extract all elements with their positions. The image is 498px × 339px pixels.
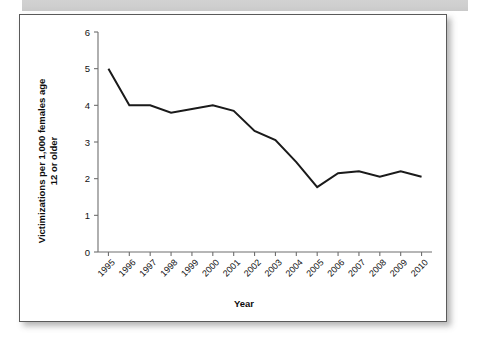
x-tick-label: 2003 [263, 257, 284, 278]
figure-card: Victimizations per 1,000 females age 12 … [19, 14, 447, 322]
chart-plot-area: Victimizations per 1,000 females age 12 … [20, 15, 446, 321]
y-axis-tick-labels: 0123456 [85, 27, 90, 258]
data-series-line [108, 69, 421, 187]
x-tick-label: 2009 [388, 257, 409, 278]
x-tick-label: 2004 [283, 257, 304, 278]
x-axis-ticks [108, 252, 421, 256]
x-tick-label: 2005 [304, 257, 325, 278]
x-tick-label: 2001 [221, 257, 242, 278]
y-tick-label: 6 [85, 27, 90, 38]
x-tick-label: 2010 [409, 257, 430, 278]
x-tick-label: 1995 [96, 257, 117, 278]
x-tick-label: 2002 [242, 257, 263, 278]
y-tick-label: 5 [85, 63, 90, 74]
y-tick-label: 0 [85, 247, 90, 258]
y-tick-label: 3 [85, 137, 90, 148]
x-axis-tick-labels: 1995199619971998199920002001200220032004… [96, 257, 430, 278]
x-tick-label: 2008 [367, 257, 388, 278]
x-tick-label: 1997 [137, 257, 158, 278]
y-axis-title-line2: 12 or older [48, 136, 59, 185]
x-tick-label: 1998 [158, 257, 179, 278]
x-tick-label: 1996 [116, 257, 137, 278]
y-tick-label: 2 [85, 173, 90, 184]
y-axis-title-line1: Victimizations per 1,000 females age [36, 79, 47, 244]
y-axis-ticks [94, 32, 98, 252]
y-tick-label: 1 [85, 210, 90, 221]
x-tick-label: 1999 [179, 257, 200, 278]
x-tick-label: 2007 [346, 257, 367, 278]
x-tick-label: 2006 [325, 257, 346, 278]
x-axis-title: Year [234, 298, 254, 309]
top-grey-band [22, 0, 468, 11]
x-tick-label: 2000 [200, 257, 221, 278]
line-chart: Victimizations per 1,000 females age 12 … [20, 15, 446, 321]
y-axis-title: Victimizations per 1,000 females age 12 … [36, 79, 59, 244]
y-tick-label: 4 [85, 100, 90, 111]
